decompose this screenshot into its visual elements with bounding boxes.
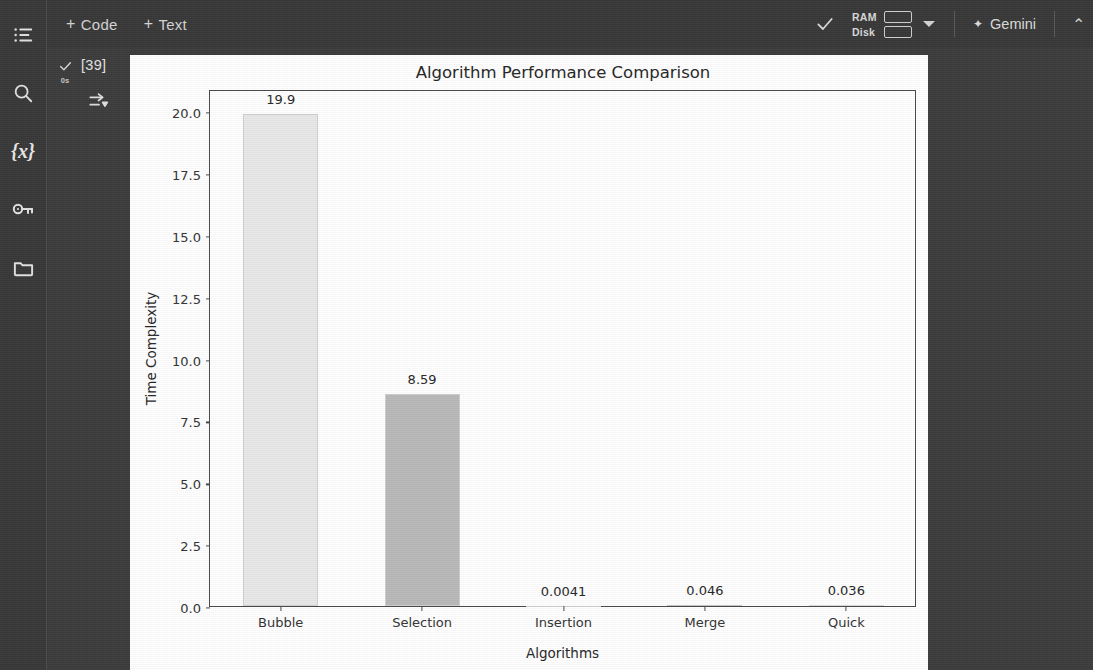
plus-icon: + (66, 16, 76, 32)
y-axis-tick-mark (206, 298, 211, 299)
add-code-cell-button[interactable]: + Code (62, 12, 122, 37)
gemini-label: Gemini (990, 16, 1036, 32)
y-axis-tick-mark (206, 484, 211, 485)
add-text-cell-button[interactable]: + Text (140, 12, 191, 37)
bar (243, 114, 318, 606)
y-axis-tick-mark (206, 175, 211, 176)
cell-run-status[interactable]: 0s (54, 59, 76, 85)
x-axis-tick-mark (280, 606, 281, 611)
collapse-header-chevron-up-icon[interactable]: ⌃ (1063, 0, 1093, 48)
toolbar-divider (1054, 11, 1055, 37)
y-axis-tick-mark (206, 607, 211, 608)
sidebar-item-variables[interactable]: {x} (8, 136, 38, 166)
output-toggle-icon[interactable] (86, 88, 112, 114)
add-code-cell-label: Code (81, 16, 118, 33)
notebook-toolbar: + Code + Text RAM Disk (0, 0, 1093, 48)
disk-gauge-icon (884, 26, 912, 38)
sparkle-icon: ✦ (973, 17, 983, 31)
toolbar-right-group: RAM Disk ✦ Gemini ⌃ (810, 0, 1093, 48)
bar-value-label: 0.0041 (541, 584, 587, 599)
cell-run-time: 0s (61, 76, 70, 85)
x-axis-tick-label: Quick (828, 615, 865, 630)
bar (385, 394, 460, 606)
sidebar-item-secrets[interactable] (8, 194, 38, 224)
ram-gauge-icon (884, 11, 912, 23)
sidebar-item-files[interactable] (8, 252, 38, 282)
runtime-menu-chevron-down-icon[interactable] (912, 0, 946, 48)
gemini-button[interactable]: ✦ Gemini (963, 12, 1046, 36)
ram-usage-row: RAM (852, 11, 912, 23)
toolbar-divider (954, 11, 955, 37)
cell-output-panel: Algorithm Performance Comparison Time Co… (130, 55, 928, 670)
cell-gutter: 0s [39] (48, 48, 130, 670)
x-axis-tick-mark (422, 606, 423, 611)
variables-icon: {x} (11, 141, 35, 161)
left-sidebar-rail: {x} (0, 0, 47, 670)
sidebar-item-table-of-contents[interactable] (8, 20, 38, 50)
bar-value-label: 8.59 (408, 372, 437, 387)
y-axis-tick-label: 12.5 (172, 291, 210, 306)
y-axis-tick-label: 15.0 (172, 229, 210, 244)
bar-value-label: 19.9 (266, 92, 295, 107)
x-axis-tick-label: Insertion (535, 615, 592, 630)
y-axis-tick-mark (206, 113, 211, 114)
ram-label: RAM (852, 11, 878, 23)
plus-icon: + (144, 16, 154, 32)
x-axis-tick-label: Selection (392, 615, 452, 630)
x-axis-tick-mark (846, 606, 847, 611)
colab-notebook-window: + Code + Text RAM Disk (0, 0, 1093, 670)
x-axis-tick-label: Merge (685, 615, 726, 630)
y-axis-tick-label: 20.0 (172, 106, 210, 121)
y-axis-tick-label: 17.5 (172, 168, 210, 183)
y-axis-tick-mark (206, 360, 211, 361)
x-axis-tick-label: Bubble (258, 615, 303, 630)
resource-usage-indicator[interactable]: RAM Disk (852, 11, 912, 38)
chart-title: Algorithm Performance Comparison (209, 63, 917, 82)
matplotlib-figure: Algorithm Performance Comparison Time Co… (130, 55, 928, 670)
y-axis-tick-mark (206, 546, 211, 547)
x-axis-tick-mark (563, 606, 564, 611)
disk-usage-row: Disk (852, 26, 912, 38)
y-axis-tick-mark (206, 422, 211, 423)
connected-check-icon[interactable] (810, 0, 840, 48)
x-axis-tick-mark (704, 606, 705, 611)
y-axis-tick-mark (206, 236, 211, 237)
cell-success-check-icon (59, 59, 72, 75)
add-text-cell-label: Text (158, 16, 187, 33)
cell-execution-count: [39] (81, 57, 106, 73)
bar-value-label: 0.046 (686, 583, 723, 598)
plot-area: 0.02.55.07.510.012.515.017.520.019.9Bubb… (210, 91, 915, 606)
y-axis-tick-label: 10.0 (172, 353, 210, 368)
disk-label: Disk (852, 26, 878, 38)
sidebar-item-search[interactable] (8, 78, 38, 108)
plot-axes: 0.02.55.07.510.012.515.017.520.019.9Bubb… (209, 90, 916, 607)
bar-value-label: 0.036 (828, 583, 865, 598)
x-axis-label: Algorithms (209, 645, 916, 661)
y-axis-label: Time Complexity (143, 90, 161, 607)
